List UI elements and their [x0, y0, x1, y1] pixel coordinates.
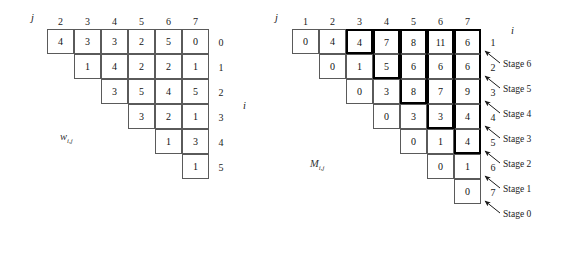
right-matrix-name-sub: i,j — [319, 164, 325, 172]
w-matrix-row-header: 1 — [214, 61, 228, 74]
m-matrix-row-header: 3 — [486, 86, 500, 99]
w-matrix-row-header: 4 — [214, 136, 228, 149]
left-axis-i-label: i — [243, 100, 246, 111]
m-matrix-col-header: 3 — [346, 15, 373, 28]
w-matrix-cell: 2 — [128, 54, 155, 79]
right-matrix-name: Mi,j — [310, 158, 324, 172]
m-matrix-cell: 6 — [427, 54, 454, 79]
m-matrix-cell: 5 — [373, 54, 400, 79]
w-matrix-cell: 1 — [155, 129, 182, 154]
m-matrix-cell: 4 — [319, 29, 346, 54]
m-matrix-cell: 0 — [346, 79, 373, 104]
m-matrix-cell: 6 — [454, 29, 481, 54]
m-matrix-col-header: 1 — [292, 15, 319, 28]
m-matrix-row-header: 7 — [486, 186, 500, 199]
m-matrix-cell: 9 — [454, 79, 481, 104]
stage-label: Stage 5 — [503, 84, 531, 94]
m-matrix-cell: 4 — [454, 129, 481, 154]
m-matrix-cell: 3 — [373, 79, 400, 104]
m-matrix-col-header: 7 — [454, 15, 481, 28]
m-matrix-cell: 7 — [373, 29, 400, 54]
left-axis-j-label: j — [31, 12, 34, 23]
stage-label: Stage 0 — [503, 209, 531, 219]
w-matrix-cell: 2 — [155, 54, 182, 79]
stage-label: Stage 1 — [503, 184, 531, 194]
w-matrix-cell: 4 — [101, 54, 128, 79]
m-matrix-col-header: 6 — [427, 15, 454, 28]
w-matrix-col-header: 4 — [101, 15, 128, 28]
m-matrix-col-header: 4 — [373, 15, 400, 28]
m-matrix-row-header: 5 — [486, 136, 500, 149]
w-matrix-row-header: 3 — [214, 111, 228, 124]
w-matrix-cell: 1 — [182, 104, 209, 129]
left-matrix-name-base: w — [60, 131, 67, 142]
right-axis-i-label: i — [511, 25, 514, 36]
w-matrix-cell: 5 — [182, 79, 209, 104]
m-matrix-cell: 0 — [454, 179, 481, 204]
m-matrix-cell: 11 — [427, 29, 454, 54]
w-matrix-cell: 3 — [182, 129, 209, 154]
w-matrix-row-header: 5 — [214, 161, 228, 174]
m-matrix-row-header: 4 — [486, 111, 500, 124]
m-matrix-cell: 7 — [427, 79, 454, 104]
w-matrix-row-header: 0 — [214, 36, 228, 49]
w-matrix-cell: 3 — [101, 79, 128, 104]
w-matrix-cell: 5 — [155, 29, 182, 54]
m-matrix-cell: 6 — [400, 54, 427, 79]
w-matrix-cell: 4 — [155, 79, 182, 104]
m-matrix-cell: 0 — [427, 154, 454, 179]
w-matrix-cell: 2 — [128, 29, 155, 54]
m-matrix-cell: 3 — [400, 104, 427, 129]
m-matrix-col-header: 5 — [400, 15, 427, 28]
m-matrix-cell: 0 — [373, 104, 400, 129]
m-matrix-col-header: 2 — [319, 15, 346, 28]
stage-label: Stage 2 — [503, 159, 531, 169]
left-matrix-name: wi,j — [60, 131, 73, 145]
w-matrix-col-header: 3 — [74, 15, 101, 28]
m-matrix-cell: 3 — [427, 104, 454, 129]
m-matrix-row-header: 1 — [486, 36, 500, 49]
w-matrix-row-header: 2 — [214, 86, 228, 99]
right-matrix-name-base: M — [310, 158, 319, 169]
m-matrix-cell: 6 — [454, 54, 481, 79]
stage-label: Stage 3 — [503, 134, 531, 144]
w-matrix-cell: 3 — [101, 29, 128, 54]
w-matrix-cell: 3 — [128, 104, 155, 129]
stage-arrow — [485, 201, 500, 213]
left-matrix-name-sub: i,j — [67, 137, 73, 145]
w-matrix-cell: 2 — [155, 104, 182, 129]
m-matrix-row-header: 6 — [486, 161, 500, 174]
figure-root: 234567433250014221135452321313415 j i wi… — [0, 0, 562, 259]
m-matrix-cell: 4 — [454, 104, 481, 129]
m-matrix-cell: 8 — [400, 79, 427, 104]
w-matrix-cell: 1 — [182, 154, 209, 179]
stage-label: Stage 6 — [503, 59, 531, 69]
w-matrix-col-header: 5 — [128, 15, 155, 28]
w-matrix-cell: 1 — [182, 54, 209, 79]
m-matrix-cell: 4 — [346, 29, 373, 54]
m-matrix-cell: 8 — [400, 29, 427, 54]
w-matrix-col-header: 6 — [155, 15, 182, 28]
m-matrix-cell: 0 — [400, 129, 427, 154]
w-matrix-cell: 0 — [182, 29, 209, 54]
m-matrix-cell: 1 — [346, 54, 373, 79]
m-matrix-cell: 1 — [427, 129, 454, 154]
w-matrix-cell: 1 — [74, 54, 101, 79]
m-matrix-cell: 0 — [292, 29, 319, 54]
w-matrix-cell: 5 — [128, 79, 155, 104]
m-matrix-cell: 1 — [454, 154, 481, 179]
w-matrix-cell: 3 — [74, 29, 101, 54]
w-matrix-cell: 4 — [47, 29, 74, 54]
stage-label: Stage 4 — [503, 109, 531, 119]
w-matrix-col-header: 2 — [47, 15, 74, 28]
m-matrix-cell: 0 — [319, 54, 346, 79]
right-axis-j-label: j — [275, 12, 278, 23]
w-matrix-col-header: 7 — [182, 15, 209, 28]
m-matrix-row-header: 2 — [486, 61, 500, 74]
